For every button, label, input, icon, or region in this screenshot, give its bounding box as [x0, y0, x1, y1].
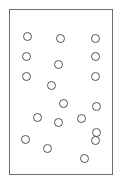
- data-point-circle: [59, 99, 68, 108]
- data-point-circle: [56, 34, 65, 43]
- data-point-circle: [91, 72, 100, 81]
- data-point-circle: [54, 118, 63, 127]
- data-point-circle: [91, 52, 100, 61]
- data-point-circle: [33, 113, 42, 122]
- dot-layer: [0, 0, 122, 187]
- data-point-circle: [92, 102, 101, 111]
- figure-canvas: [0, 0, 122, 187]
- data-point-circle: [77, 114, 86, 123]
- data-point-circle: [92, 128, 101, 137]
- data-point-circle: [91, 136, 100, 145]
- data-point-circle: [21, 135, 30, 144]
- data-point-circle: [22, 72, 31, 81]
- data-point-circle: [54, 60, 63, 69]
- data-point-circle: [80, 154, 89, 163]
- data-point-circle: [91, 34, 100, 43]
- data-point-circle: [23, 32, 32, 41]
- data-point-circle: [47, 81, 56, 90]
- data-point-circle: [22, 52, 31, 61]
- data-point-circle: [43, 144, 52, 153]
